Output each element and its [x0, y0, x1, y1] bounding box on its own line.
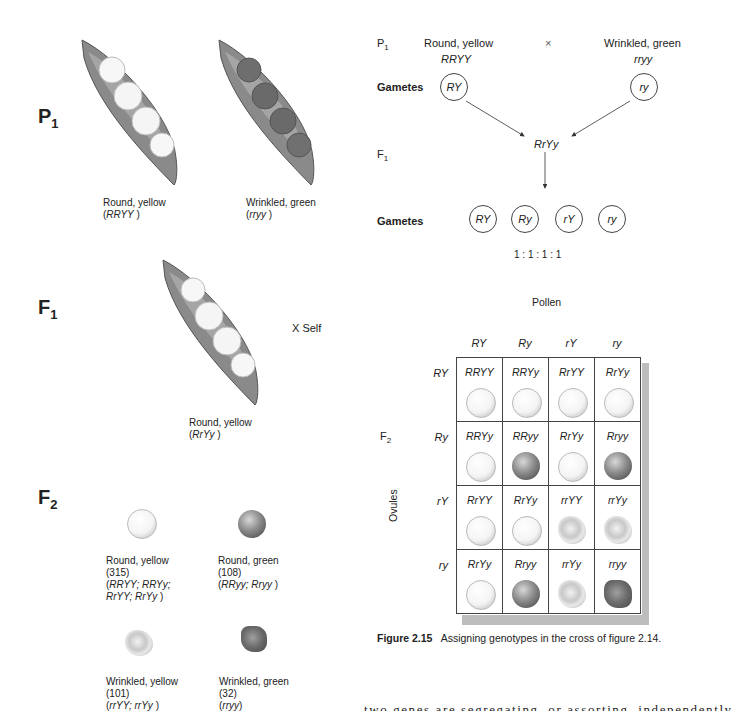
- body-text-fragment: two genes are segregating, or assorting,…: [364, 700, 733, 711]
- seed-round-yellow-icon: [466, 516, 496, 546]
- figure-caption-text: Assigning genotypes in the cross of figu…: [441, 632, 662, 644]
- punnett-cell: RRYy: [503, 358, 549, 422]
- seed-round-yellow-icon: [466, 388, 496, 418]
- punnett-row: RRYy RRyy RrYy Rryy: [457, 422, 641, 486]
- punnett-row: RRYY RRYy RrYY RrYy: [457, 358, 641, 422]
- self-cross-label: X Self: [292, 322, 321, 334]
- punnett-square: RRYY RRYy RrYY RrYy RRYy RRyy RrYy Rryy …: [456, 357, 641, 614]
- f1-genotype: RrYy: [534, 138, 558, 150]
- f2-generation-label: F2: [38, 486, 57, 512]
- punnett-cell: RrYy: [549, 422, 595, 486]
- seed-round-yellow-icon: [558, 452, 588, 482]
- f1-gametes-label: Gametes: [377, 215, 423, 227]
- pollen-label: Pollen: [532, 296, 561, 308]
- seed-round-yellow-icon: [512, 388, 542, 418]
- punnett-cell: RRYy: [457, 422, 503, 486]
- figure-number: Figure 2.15: [377, 632, 432, 644]
- punnett-cell: RrYy: [503, 486, 549, 550]
- seed-wrinkled-yellow-icon: [558, 516, 586, 544]
- f1-gamete-Ry: Ry: [511, 205, 539, 233]
- seed-round-yellow-icon: [127, 509, 157, 539]
- f1-gamete-RY: RY: [469, 205, 497, 233]
- seed-wrinkled-yellow-icon: [125, 630, 153, 656]
- seed-round-yellow-icon: [512, 516, 542, 546]
- pollen-col-RY: RY: [456, 337, 502, 349]
- punnett-cell: RrYY: [549, 358, 595, 422]
- f1-gamete-ry: ry: [598, 205, 626, 233]
- punnett-f2-label: F2: [380, 430, 391, 445]
- pea-pod-round-yellow-icon: [78, 38, 188, 188]
- seed-round-green-icon: [238, 510, 266, 538]
- punnett-cell: Rryy: [595, 422, 641, 486]
- p1-pod1-caption: Round, yellow (RRYY ): [103, 197, 166, 221]
- punnett-cell: RRYY: [457, 358, 503, 422]
- p1-pod2-caption: Wrinkled, green (rryy ): [246, 197, 316, 221]
- f2-class-round-yellow: Round, yellow (315) (RRYY; RRYy; RrYY; R…: [106, 555, 170, 603]
- pollen-col-ry: ry: [594, 337, 640, 349]
- ovule-row-rY: rY: [424, 495, 448, 507]
- ovule-row-RY: RY: [424, 367, 448, 379]
- seed-round-green-icon: [512, 580, 540, 608]
- punnett-shadow-right: [642, 363, 649, 625]
- seed-round-yellow-icon: [466, 580, 496, 610]
- ovule-row-ry: ry: [424, 559, 448, 571]
- f2-class-wrinkled-green: Wrinkled, green (32) (rryy): [219, 676, 289, 711]
- pollen-col-rY: rY: [548, 337, 594, 349]
- f1-generation-label: F1: [38, 296, 57, 322]
- seed-round-green-icon: [512, 452, 540, 480]
- f2-class-round-green: Round, green (108) (RRyy; Rryy ): [218, 555, 279, 591]
- gamete-ratio: 1 : 1 : 1 : 1: [514, 249, 561, 260]
- seed-wrinkled-green-icon: [241, 626, 267, 652]
- seed-round-green-icon: [604, 452, 632, 480]
- punnett-cell: rrYy: [549, 550, 595, 614]
- punnett-cell: RrYY: [457, 486, 503, 550]
- punnett-cell: Rryy: [503, 550, 549, 614]
- punnett-cell: rrYY: [549, 486, 595, 550]
- punnett-cell: rryy: [595, 550, 641, 614]
- seed-wrinkled-yellow-icon: [604, 516, 632, 544]
- punnett-row: RrYy Rryy rrYy rryy: [457, 550, 641, 614]
- punnett-row: RrYY RrYy rrYY rrYy: [457, 486, 641, 550]
- ovules-label: Ovules: [387, 489, 399, 522]
- seed-round-yellow-icon: [604, 388, 634, 418]
- punnett-cell: RrYy: [457, 550, 503, 614]
- seed-wrinkled-yellow-icon: [558, 580, 586, 608]
- seed-round-yellow-icon: [558, 388, 588, 418]
- seed-round-yellow-icon: [466, 452, 496, 482]
- pollen-col-Ry: Ry: [502, 337, 548, 349]
- pea-pod-wrinkled-green-icon: [215, 38, 325, 188]
- p1-generation-label: P1: [38, 105, 59, 131]
- figure-caption: Figure 2.15 Assigning genotypes in the c…: [377, 632, 661, 644]
- seed-wrinkled-green-icon: [604, 580, 632, 608]
- f1-pod-caption: Round, yellow (RrYy ): [189, 417, 252, 441]
- punnett-shadow-bottom: [462, 615, 649, 625]
- ovule-row-Ry: Ry: [424, 431, 448, 443]
- punnett-cell: RrYy: [595, 358, 641, 422]
- pea-pod-f1-round-yellow-icon: [159, 258, 269, 408]
- f1-gamete-rY: rY: [555, 205, 583, 233]
- punnett-cell: rrYy: [595, 486, 641, 550]
- diagram-f1-label: F1: [377, 148, 388, 163]
- punnett-cell: RRyy: [503, 422, 549, 486]
- f2-class-wrinkled-yellow: Wrinkled, yellow (101) (rrYY; rrYy ): [106, 676, 178, 711]
